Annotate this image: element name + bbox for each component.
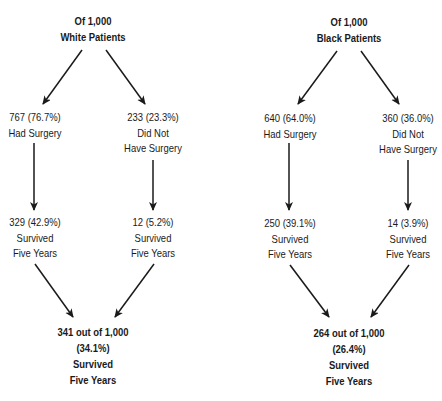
total-count: 341 out of 1,000 — [33, 324, 153, 340]
no-surgery-survived-node: 14 (3.9%) Survived Five Years — [348, 216, 442, 263]
no-surgery-label-1: Did Not — [93, 126, 213, 142]
root-group: Black Patients — [289, 30, 409, 46]
surgery-node: 640 (64.0%) Had Surgery — [230, 111, 350, 142]
no-surgery-survived-label-1: Survived — [348, 232, 442, 248]
root-count: Of 1,000 — [33, 13, 153, 29]
no-surgery-label-2: Have Surgery — [348, 142, 442, 158]
total-percent: (26.4%) — [289, 341, 409, 357]
total-label-2: Five Years — [289, 373, 409, 389]
no-surgery-survived-count: 12 (5.2%) — [93, 215, 213, 231]
no-surgery-survived-count: 14 (3.9%) — [348, 216, 442, 232]
no-surgery-survived-label-2: Five Years — [348, 247, 442, 263]
no-surgery-survived-label-2: Five Years — [93, 246, 213, 262]
surgery-count: 767 (76.7%) — [0, 110, 95, 126]
surgery-survived-label-2: Five Years — [0, 246, 95, 262]
total-node: 341 out of 1,000 (34.1%) Survived Five Y… — [33, 324, 153, 388]
surgery-node: 767 (76.7%) Had Surgery — [0, 110, 95, 141]
surgery-survived-node: 329 (42.9%) Survived Five Years — [0, 215, 95, 262]
root-group: White Patients — [33, 29, 153, 45]
surgery-label: Had Surgery — [0, 126, 95, 142]
no-surgery-label-1: Did Not — [348, 127, 442, 143]
surgery-label: Had Surgery — [230, 127, 350, 143]
no-surgery-node: 233 (23.3%) Did Not Have Surgery — [93, 110, 213, 157]
total-label-1: Survived — [33, 356, 153, 372]
total-label-1: Survived — [289, 357, 409, 373]
surgery-survived-label-2: Five Years — [230, 247, 350, 263]
root-node: Of 1,000 White Patients — [33, 13, 153, 45]
surgery-survived-count: 250 (39.1%) — [230, 216, 350, 232]
surgery-survived-label-1: Survived — [230, 232, 350, 248]
no-surgery-survived-node: 12 (5.2%) Survived Five Years — [93, 215, 213, 262]
total-count: 264 out of 1,000 — [289, 325, 409, 341]
root-node: Of 1,000 Black Patients — [289, 14, 409, 46]
surgery-survived-node: 250 (39.1%) Survived Five Years — [230, 216, 350, 263]
surgery-count: 640 (64.0%) — [230, 111, 350, 127]
surgery-survived-label-1: Survived — [0, 231, 95, 247]
no-surgery-survived-label-1: Survived — [93, 231, 213, 247]
no-surgery-count: 360 (36.0%) — [348, 111, 442, 127]
white-patients-diagram: Of 1,000 White Patients 767 (76.7%) Had … — [0, 0, 221, 401]
total-node: 264 out of 1,000 (26.4%) Survived Five Y… — [289, 325, 409, 389]
no-surgery-count: 233 (23.3%) — [93, 110, 213, 126]
root-count: Of 1,000 — [289, 14, 409, 30]
surgery-survived-count: 329 (42.9%) — [0, 215, 95, 231]
no-surgery-label-2: Have Surgery — [93, 141, 213, 157]
black-patients-diagram: Of 1,000 Black Patients 640 (64.0%) Had … — [221, 0, 442, 401]
no-surgery-node: 360 (36.0%) Did Not Have Surgery — [348, 111, 442, 158]
total-percent: (34.1%) — [33, 340, 153, 356]
total-label-2: Five Years — [33, 372, 153, 388]
